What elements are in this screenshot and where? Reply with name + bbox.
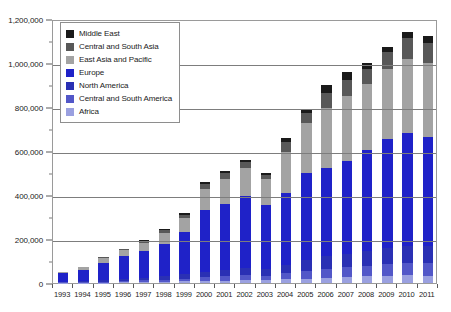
- bar-segment: [382, 248, 393, 265]
- legend-item-label: East Asia and Pacific: [79, 55, 152, 64]
- bar-segment: [281, 265, 292, 274]
- legend-item: Central and South America: [66, 92, 172, 105]
- bar-1995: [98, 257, 109, 283]
- x-axis-tick-mark: [93, 284, 94, 288]
- bar-segment: [200, 189, 211, 210]
- x-axis-tick-mark: [214, 284, 215, 288]
- bar-segment: [382, 264, 393, 276]
- bar-segment: [281, 279, 292, 283]
- x-axis-tick-label: 1995: [95, 290, 111, 299]
- bar-segment: [423, 246, 434, 263]
- bar-segment: [220, 204, 231, 270]
- bar-segment: [342, 80, 353, 97]
- bar-segment: [139, 243, 150, 251]
- bar-2003: [261, 173, 272, 283]
- bar-segment: [362, 69, 373, 83]
- legend-swatch-icon: [66, 56, 74, 64]
- bar-1994: [78, 267, 89, 283]
- bar-segment: [321, 269, 332, 278]
- x-axis-tick-mark: [437, 284, 438, 288]
- legend-item-label: Middle East: [79, 29, 120, 38]
- bar-segment: [402, 263, 413, 275]
- bar-segment: [139, 251, 150, 278]
- bar-segment: [342, 267, 353, 277]
- bar-segment: [382, 52, 393, 69]
- bar-segment: [301, 279, 312, 283]
- x-axis-tick-mark: [52, 284, 53, 288]
- bar-segment: [200, 281, 211, 283]
- bar-segment: [261, 179, 272, 205]
- bar-segment: [321, 278, 332, 283]
- bar-segment: [261, 280, 272, 283]
- bar-segment: [301, 123, 312, 174]
- legend-item: Europe: [66, 66, 172, 79]
- x-axis-tick-mark: [376, 284, 377, 288]
- legend-swatch-icon: [66, 108, 74, 116]
- bar-segment: [159, 282, 170, 283]
- bar-2008: [362, 63, 373, 283]
- bar-segment: [362, 276, 373, 283]
- bar-segment: [159, 244, 170, 277]
- bar-segment: [362, 84, 373, 150]
- bar-1998: [159, 229, 170, 283]
- bar-segment: [240, 196, 251, 268]
- x-axis-tick-label: 1994: [74, 290, 90, 299]
- x-axis-tick-mark: [255, 284, 256, 288]
- gridline: [53, 241, 436, 242]
- x-axis-tick-label: 1997: [135, 290, 151, 299]
- x-axis-tick-label: 1996: [115, 290, 131, 299]
- bar-2010: [402, 32, 413, 283]
- legend-item-label: Central and South America: [79, 94, 172, 103]
- bar-segment: [423, 63, 434, 138]
- y-axis-tick-label: 200,000: [15, 236, 43, 245]
- bar-segment: [281, 152, 292, 193]
- gridline: [53, 197, 436, 198]
- bar-segment: [240, 280, 251, 283]
- bar-segment: [240, 168, 251, 197]
- legend-item: Central and South Asia: [66, 40, 172, 53]
- bar-segment: [321, 93, 332, 108]
- x-axis-tick-label: 1999: [176, 290, 192, 299]
- x-axis-tick-label: 2006: [318, 290, 334, 299]
- bar-segment: [220, 179, 231, 204]
- x-axis-tick-label: 2004: [277, 290, 293, 299]
- bar-1993: [58, 272, 69, 283]
- x-axis-tick-label: 1993: [54, 290, 70, 299]
- legend-item-label: North America: [79, 81, 128, 90]
- x-axis-tick-label: 2005: [297, 290, 313, 299]
- x-axis-tick-mark: [336, 284, 337, 288]
- bar-segment: [179, 281, 190, 283]
- bar-segment: [261, 269, 272, 276]
- x-axis-tick-mark: [396, 284, 397, 288]
- bar-segment: [342, 161, 353, 253]
- x-axis-tick-mark: [356, 284, 357, 288]
- x-axis-tick-label: 2009: [378, 290, 394, 299]
- gridline: [53, 153, 436, 154]
- bar-segment: [423, 276, 434, 283]
- bar-segment: [423, 43, 434, 63]
- bar-2007: [342, 72, 353, 283]
- x-axis-tick-mark: [315, 284, 316, 288]
- x-axis-tick-mark: [133, 284, 134, 288]
- bar-segment: [281, 193, 292, 265]
- bar-segment: [281, 142, 292, 152]
- x-axis-tick-mark: [417, 284, 418, 288]
- x-axis-tick-label: 2001: [216, 290, 232, 299]
- x-axis-tick-label: 2000: [196, 290, 212, 299]
- bar-segment: [179, 218, 190, 232]
- bar-segment: [301, 271, 312, 278]
- y-axis-tick-label: 1,000,000: [8, 60, 43, 69]
- bar-2001: [220, 171, 231, 283]
- bar-segment: [240, 268, 251, 275]
- bar-segment: [423, 36, 434, 43]
- y-axis: 0200,000400,000600,000800,0001,000,0001,…: [0, 0, 52, 312]
- bar-segment: [321, 108, 332, 169]
- bar-2011: [423, 36, 434, 283]
- legend-swatch-icon: [66, 95, 74, 103]
- bar-segment: [402, 59, 413, 133]
- bar-1996: [119, 249, 130, 283]
- bar-segment: [261, 205, 272, 269]
- bar-segment: [342, 277, 353, 283]
- legend-item-label: Central and South Asia: [79, 42, 159, 51]
- x-axis-tick-label: 2011: [419, 290, 435, 299]
